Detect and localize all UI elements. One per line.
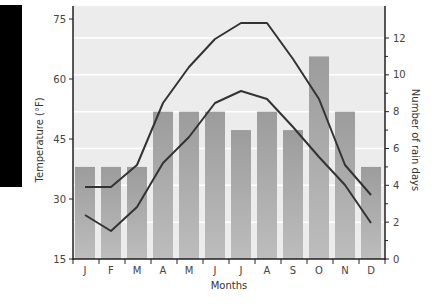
x-tick-label: J	[213, 265, 217, 276]
y2-tick-label: 12	[393, 33, 406, 44]
x-tick-label: N	[341, 265, 348, 276]
rain-bar	[153, 112, 173, 259]
y2-axis-title: Number of rain days	[410, 89, 421, 191]
y-axis-title: Temperature (°F)	[34, 97, 45, 183]
x-tick-label: F	[108, 265, 114, 276]
x-tick-label: S	[290, 265, 296, 276]
y2-tick-label: 10	[393, 69, 406, 80]
x-tick-label: J	[83, 265, 87, 276]
y2-tick-label: 6	[393, 143, 399, 154]
y-tick-label: 45	[53, 134, 66, 145]
rain-bar	[75, 167, 95, 259]
y-tick-label: 30	[53, 194, 66, 205]
rain-bar	[205, 112, 225, 259]
y-tick-label: 15	[53, 254, 66, 265]
x-tick-label: O	[315, 265, 323, 276]
x-tick-label: A	[160, 265, 167, 276]
x-tick-label: M	[133, 265, 142, 276]
y2-tick-label: 8	[393, 106, 399, 117]
rain-bar	[231, 130, 251, 259]
rain-bar	[283, 130, 303, 259]
y2-tick-label: 2	[393, 217, 399, 228]
x-tick-label: J	[239, 265, 243, 276]
x-tick-label: D	[367, 265, 375, 276]
y-tick-label: 75	[53, 14, 66, 25]
climate-chart: 1530456075024681012JFMAMJJASOND Months T…	[0, 0, 438, 307]
rain-bar	[257, 112, 277, 259]
x-axis-title: Months	[211, 280, 248, 291]
x-tick-label: M	[185, 265, 194, 276]
rain-bar	[179, 112, 199, 259]
y2-tick-label: 0	[393, 254, 399, 265]
y-tick-label: 60	[53, 74, 66, 85]
y2-tick-label: 4	[393, 180, 399, 191]
x-tick-label: A	[264, 265, 271, 276]
